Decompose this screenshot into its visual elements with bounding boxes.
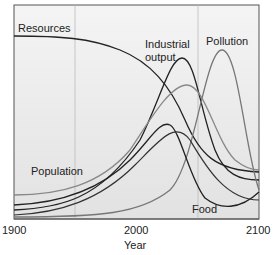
x-tick-1900: 1900 [2,224,26,236]
x-tick-2100: 2100 [246,224,270,236]
label-population: Population [31,165,83,177]
label-food: Food [192,203,217,215]
label-industrial-output-line1: Industrial [145,38,190,50]
label-resources: Resources [18,22,71,34]
label-industrial-output-line2: output [145,51,176,63]
label-pollution: Pollution [206,35,248,47]
x-tick-2000: 2000 [124,224,148,236]
x-axis-title: Year [124,239,146,251]
